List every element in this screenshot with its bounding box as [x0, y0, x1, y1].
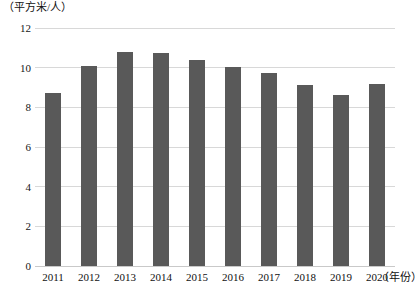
bar-chart: （平方米/人） 024681012 2011201220132014201520…: [0, 0, 415, 297]
bar: [153, 53, 169, 266]
y-axis-unit-label: （平方米/人）: [3, 1, 72, 14]
bar: [333, 95, 349, 266]
bar: [297, 85, 313, 266]
y-tick-label: 6: [3, 142, 31, 153]
bar: [189, 60, 205, 266]
y-tick-label: 2: [3, 221, 31, 232]
y-tick-label: 10: [3, 63, 31, 74]
x-axis-unit-label: （年份）: [378, 270, 415, 284]
bar: [261, 73, 277, 266]
bar: [45, 93, 61, 266]
bar: [81, 66, 97, 266]
y-tick-label: 0: [3, 261, 31, 272]
bars-layer: [35, 28, 395, 266]
y-axis-tick-labels: 024681012: [0, 28, 31, 266]
y-tick-label: 8: [3, 102, 31, 113]
bar: [117, 52, 133, 266]
y-tick-label: 4: [3, 182, 31, 193]
x-axis-tick-labels: 2011201220132014201520162017201820192020: [35, 270, 415, 290]
bar: [369, 84, 385, 266]
bar: [225, 67, 241, 266]
y-tick-label: 12: [3, 23, 31, 34]
